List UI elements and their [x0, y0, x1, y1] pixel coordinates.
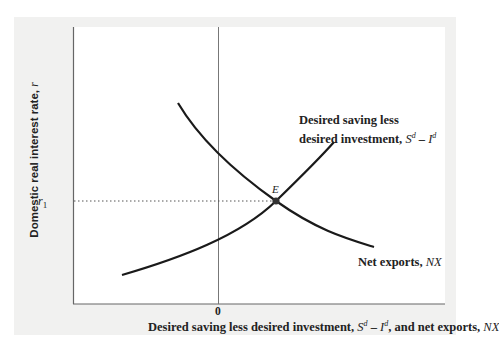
equilibrium-label: E	[272, 183, 279, 195]
saving-investment-curve-label: Desired saving less desired investment, …	[299, 113, 436, 147]
equilibrium-point	[272, 197, 279, 204]
net-exports-curve-label: Net exports, NX	[358, 255, 442, 270]
zero-tick-label: 0	[215, 305, 221, 317]
r1-tick-label: r1	[38, 194, 47, 210]
y-axis-label: Domestic real interest rate, r	[28, 82, 40, 237]
x-axis-label: Desired saving less desired investment, …	[148, 319, 499, 335]
